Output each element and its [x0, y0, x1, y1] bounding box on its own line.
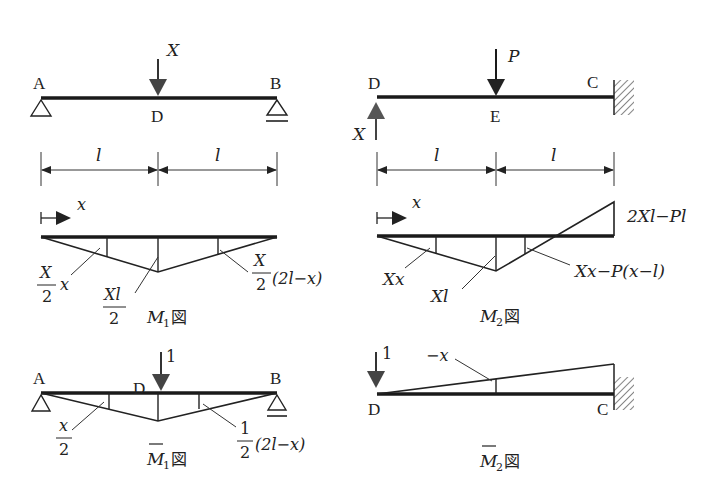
svg-text:1: 1	[382, 344, 392, 363]
svg-text:x: x	[59, 416, 68, 435]
svg-text:D: D	[368, 400, 380, 419]
svg-text:1: 1	[240, 419, 250, 438]
caption: M 1 図	[146, 444, 187, 472]
svg-text:X: X	[252, 251, 266, 270]
svg-text:2: 2	[59, 440, 69, 459]
svg-text:2: 2	[240, 443, 250, 462]
pin-support-icon	[31, 100, 51, 116]
dimension-lines: l l	[41, 145, 277, 186]
dimension-lines: l l	[377, 145, 614, 186]
svg-text:B: B	[270, 369, 281, 388]
svg-text:C: C	[597, 400, 608, 419]
span-label: l	[551, 145, 556, 165]
svg-text:図: 図	[171, 308, 187, 327]
svg-text:2: 2	[256, 275, 266, 294]
svg-text:2Xl−Pl: 2Xl−Pl	[626, 206, 686, 226]
svg-text:Xx−P(x−l): Xx−P(x−l)	[573, 261, 665, 281]
svg-text:2: 2	[109, 309, 119, 328]
svg-text:x: x	[60, 275, 69, 294]
svg-text:−x: −x	[426, 346, 448, 365]
svg-text:図: 図	[504, 452, 520, 471]
m2-bar-moment-diagram: −x 1 D C M 2 図	[367, 344, 634, 474]
svg-text:(2l−x): (2l−x)	[272, 269, 322, 288]
caption: M 2 図	[479, 306, 520, 329]
svg-text:1: 1	[163, 459, 170, 472]
down-arrow-icon	[152, 374, 170, 391]
m1-moment-diagram: x X 2 x Xl 2 X 2 (2l−x) M 1 図	[37, 195, 322, 330]
point-label-d: D	[368, 74, 380, 93]
load-label: P	[507, 46, 520, 66]
svg-text:A: A	[33, 369, 46, 388]
structural-diagram: X A D B l l P X D E C	[0, 0, 727, 497]
coordinate-arrow-icon	[56, 211, 71, 225]
fixed-wall-icon	[614, 377, 634, 410]
roller-support-icon	[267, 100, 287, 115]
up-arrow-icon	[367, 102, 385, 119]
svg-text:1: 1	[163, 317, 170, 330]
point-label-a: A	[33, 74, 46, 93]
beam-dec: P X D E C l l	[351, 46, 634, 186]
svg-text:図: 図	[171, 450, 187, 469]
load-label: X	[165, 40, 180, 60]
down-arrow-icon	[367, 371, 385, 388]
coordinate-arrow-icon	[392, 211, 407, 225]
down-arrow-icon	[149, 79, 167, 96]
svg-text:Xl: Xl	[102, 285, 121, 304]
span-label: l	[96, 145, 101, 165]
svg-text:2: 2	[496, 461, 503, 474]
caption: M 1 図	[146, 307, 187, 330]
beam-abd: X A D B l l	[31, 40, 288, 186]
svg-text:D: D	[133, 379, 145, 398]
point-label-c: C	[587, 73, 598, 92]
svg-text:Xx: Xx	[381, 269, 405, 289]
fixed-wall-icon	[614, 80, 634, 115]
m2-moment-diagram: x Xx Xl Xx−P(x−l) 2Xl−Pl M 2 図	[377, 193, 686, 329]
svg-text:x: x	[77, 195, 86, 214]
pin-support-icon	[32, 395, 50, 411]
span-label: l	[434, 145, 439, 165]
svg-text:X: X	[38, 263, 52, 282]
roller-support-icon	[268, 395, 286, 410]
svg-text:2: 2	[496, 316, 503, 329]
svg-text:Xl: Xl	[429, 286, 449, 306]
m1-bar-moment-diagram: 1 A D B x 2 1 2 (2l−x) M 1 図	[32, 347, 305, 472]
svg-text:x: x	[412, 193, 421, 212]
svg-text:2: 2	[42, 287, 52, 306]
reaction-label: X	[351, 124, 366, 144]
svg-text:(2l−x): (2l−x)	[255, 435, 305, 454]
svg-text:1: 1	[166, 347, 176, 366]
caption: M 2 図	[479, 446, 520, 474]
point-label-b: B	[270, 74, 281, 93]
down-arrow-icon	[487, 79, 505, 96]
point-label-e: E	[490, 107, 500, 126]
span-label: l	[215, 145, 220, 165]
svg-text:図: 図	[504, 307, 520, 326]
point-label-d: D	[151, 107, 163, 126]
